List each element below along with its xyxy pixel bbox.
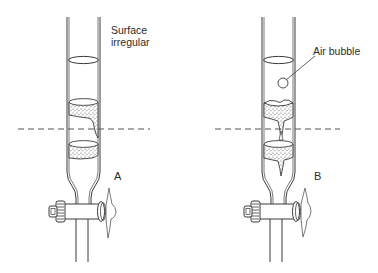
stopcock-a <box>49 188 116 238</box>
panel-label-b: B <box>314 170 321 182</box>
column-b <box>244 17 315 262</box>
gel-bed-upper-b <box>264 103 293 140</box>
column-diagram <box>0 0 378 273</box>
annotation-line-1: Surface <box>111 24 150 36</box>
stopcock-handle-b <box>301 188 311 237</box>
panel-label-a: A <box>114 170 121 182</box>
column-a <box>49 17 116 262</box>
stopcock-b <box>244 188 311 237</box>
buffer-surface-b <box>264 56 294 63</box>
air-bubble-pointer <box>286 56 315 80</box>
annotation-air-bubble: Air bubble <box>313 45 360 57</box>
gel-bed-lower-b <box>264 144 293 176</box>
buffer-surface-a <box>69 56 99 63</box>
annotation-surface-irregular: Surface irregular <box>111 24 150 48</box>
gel-bed-upper-a <box>69 102 98 138</box>
annotation-line-2: irregular <box>111 36 150 48</box>
stopcock-handle-a <box>106 188 116 238</box>
